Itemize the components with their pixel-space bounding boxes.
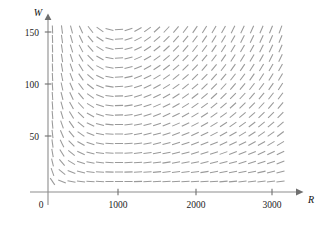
field-segment bbox=[172, 133, 180, 136]
field-segment bbox=[220, 142, 227, 145]
field-segment bbox=[173, 26, 178, 32]
field-segment bbox=[134, 133, 142, 134]
field-segment bbox=[143, 162, 151, 163]
field-segment bbox=[134, 104, 142, 106]
field-segment bbox=[241, 26, 245, 33]
field-segment bbox=[154, 46, 160, 51]
field-segment bbox=[61, 44, 62, 52]
field-segment bbox=[134, 28, 141, 32]
field-segment bbox=[105, 86, 113, 87]
field-segment bbox=[153, 143, 161, 145]
field-segment bbox=[201, 162, 209, 164]
field-segment bbox=[230, 122, 237, 127]
field-segment bbox=[269, 83, 274, 90]
field-segment bbox=[61, 63, 62, 71]
field-segment bbox=[77, 171, 85, 173]
field-segment bbox=[68, 160, 75, 164]
field-segment bbox=[277, 171, 285, 173]
field-segment bbox=[183, 36, 188, 42]
y-tick-label-150: 150 bbox=[25, 28, 40, 38]
field-segment bbox=[248, 142, 255, 146]
field-segment bbox=[60, 130, 63, 138]
field-segment bbox=[115, 39, 123, 40]
field-segment bbox=[134, 124, 142, 126]
field-segment bbox=[183, 26, 188, 33]
field-segment bbox=[230, 74, 235, 80]
field-segment bbox=[201, 132, 208, 136]
field-segment bbox=[259, 83, 264, 90]
field-segment bbox=[163, 123, 171, 126]
field-segment bbox=[153, 75, 160, 79]
field-segment bbox=[77, 181, 85, 182]
field-segment bbox=[87, 94, 94, 99]
field-segment bbox=[172, 123, 180, 126]
field-segment bbox=[77, 141, 84, 145]
field-segment bbox=[172, 181, 180, 182]
field-segment bbox=[125, 47, 133, 49]
field-segment bbox=[153, 94, 160, 98]
field-segment bbox=[211, 74, 216, 80]
field-segment bbox=[68, 170, 76, 173]
field-segment bbox=[220, 152, 228, 155]
field-segment bbox=[267, 181, 275, 182]
field-segment bbox=[229, 181, 237, 182]
field-segment bbox=[277, 161, 285, 164]
field-segment bbox=[79, 35, 83, 42]
field-segment bbox=[250, 54, 254, 61]
field-segment bbox=[144, 37, 151, 42]
field-segment bbox=[105, 67, 113, 69]
field-segment bbox=[183, 65, 189, 71]
field-segment bbox=[240, 45, 244, 52]
field-segment bbox=[220, 161, 228, 163]
field-segment bbox=[124, 86, 132, 88]
field-segment bbox=[96, 133, 104, 135]
field-segment bbox=[192, 65, 198, 71]
field-segment bbox=[61, 92, 63, 100]
field-segment bbox=[221, 84, 227, 90]
plot-canvas: 1000 2000 3000 150 100 50 0 W R bbox=[0, 0, 325, 229]
field-segment bbox=[201, 93, 207, 98]
field-segment bbox=[219, 171, 227, 172]
field-segment bbox=[220, 113, 227, 118]
field-segment bbox=[212, 36, 216, 43]
field-segment bbox=[259, 64, 263, 71]
field-segment bbox=[267, 171, 275, 173]
field-segment bbox=[229, 142, 236, 146]
field-segment bbox=[105, 134, 113, 135]
field-segment bbox=[220, 103, 226, 108]
field-segment bbox=[106, 28, 114, 30]
field-segment bbox=[124, 124, 132, 125]
field-segment bbox=[163, 55, 169, 60]
field-segment bbox=[201, 113, 208, 117]
field-segment bbox=[269, 54, 273, 61]
field-segment bbox=[250, 35, 254, 42]
field-segment bbox=[260, 26, 263, 34]
field-segment bbox=[153, 152, 161, 153]
field-segment bbox=[163, 133, 171, 136]
field-segment bbox=[220, 122, 227, 126]
y-axis-arrowhead bbox=[45, 14, 52, 21]
field-segment bbox=[278, 73, 282, 80]
field-segment bbox=[181, 162, 189, 164]
field-segment bbox=[240, 83, 245, 89]
field-segment bbox=[221, 35, 225, 42]
field-segment bbox=[125, 57, 133, 59]
field-segment bbox=[134, 162, 142, 163]
field-segment bbox=[240, 93, 246, 99]
y-tick-label-50: 50 bbox=[30, 132, 40, 142]
field-segment bbox=[249, 122, 256, 127]
field-segment bbox=[153, 114, 161, 117]
field-segment bbox=[192, 55, 197, 61]
field-segment bbox=[240, 74, 245, 81]
field-segment bbox=[231, 64, 236, 71]
field-segment bbox=[96, 95, 104, 98]
field-segment bbox=[79, 83, 84, 90]
field-segment bbox=[162, 162, 170, 163]
field-segment bbox=[96, 152, 104, 153]
field-segment bbox=[69, 131, 74, 137]
field-segment bbox=[69, 141, 75, 147]
field-segment bbox=[105, 105, 113, 106]
field-segment bbox=[279, 45, 282, 52]
field-segment bbox=[88, 65, 94, 71]
field-segment bbox=[125, 28, 133, 31]
